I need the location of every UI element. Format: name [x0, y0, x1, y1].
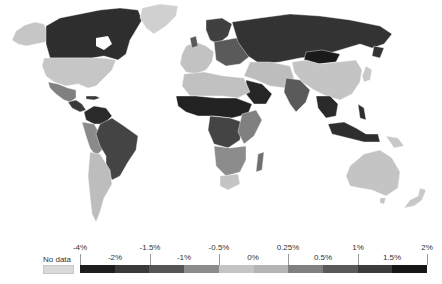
legend-tick-label: -0.5% [209, 243, 230, 252]
region-new-zealand [404, 188, 426, 208]
legend-tick-label: -1.5% [140, 243, 161, 252]
legend-tick-label: -1% [177, 253, 191, 262]
no-data-swatch [43, 265, 74, 274]
legend-segment [149, 265, 184, 273]
legend-tick [219, 254, 220, 265]
legend-segment [392, 265, 427, 273]
region-greenland [140, 4, 178, 34]
legend-segment [219, 265, 254, 273]
legend-segment [184, 265, 219, 273]
region-australia [346, 150, 400, 196]
legend-tick-label: -2% [108, 253, 122, 262]
legend-tick-label: 0.5% [314, 253, 332, 262]
region-southern-africa [214, 146, 246, 176]
region-indonesia [328, 122, 380, 142]
region-philippines [358, 104, 366, 120]
legend-tick-label: 0% [247, 253, 259, 262]
region-far-east [372, 46, 384, 58]
region-europe-west [180, 42, 214, 74]
region-sahel [176, 96, 252, 118]
region-southeast-asia [316, 96, 338, 118]
legend-tick [288, 254, 289, 265]
world-map [0, 0, 442, 240]
region-madagascar [256, 152, 264, 172]
legend-segment [115, 265, 150, 273]
legend-tick [427, 254, 428, 265]
region-caribbean [86, 96, 100, 100]
region-tasmania [380, 198, 386, 204]
legend-segment [358, 265, 393, 273]
region-alaska [12, 22, 48, 46]
legend-tick-label: -4% [73, 243, 87, 252]
legend-tick-label: 0.25% [277, 243, 300, 252]
region-japan [362, 66, 372, 82]
region-east-africa [238, 110, 262, 144]
legend-tick-label: 1% [352, 243, 364, 252]
legend-tick [358, 254, 359, 265]
legend-segment [254, 265, 289, 273]
legend-tick [150, 254, 151, 265]
region-south-africa [220, 174, 240, 190]
legend: No data -4%-1.5%-0.5%0.25%1%2%-2%-1%0%0.… [0, 240, 442, 284]
legend-tick [80, 254, 81, 265]
region-central-america [68, 100, 86, 112]
region-central-africa [208, 116, 242, 148]
legend-tick-label: 1.5% [383, 253, 401, 262]
region-canada [46, 8, 142, 60]
legend-tick-label: 2% [421, 243, 433, 252]
region-north-africa [182, 72, 250, 98]
region-papua [386, 136, 404, 148]
no-data-label: No data [43, 255, 71, 264]
legend-segment [80, 265, 115, 273]
legend-segment [323, 265, 358, 273]
color-scale-bar [80, 265, 427, 273]
legend-segment [288, 265, 323, 273]
